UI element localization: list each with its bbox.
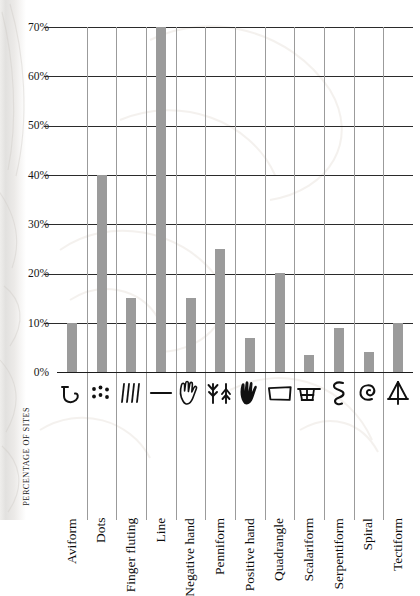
y-tick-60: 60% (5, 70, 49, 82)
bar-quadrangle (275, 273, 285, 372)
column-separator (383, 27, 384, 372)
aviform-icon (57, 375, 87, 411)
bar-serpentiform (334, 328, 344, 372)
negative-hand-icon (176, 375, 206, 411)
dots-icon (87, 375, 117, 411)
spiral-icon (354, 375, 384, 411)
tectiform-icon (383, 375, 413, 411)
positive-hand-icon (235, 375, 265, 411)
category-label: Positive hand (243, 518, 257, 591)
column-separator (294, 27, 295, 372)
category-cell-serpentiform: Serpentiform (324, 373, 354, 520)
category-cell-penniform: Penniform (205, 373, 235, 520)
category-label: Finger fluting (124, 518, 138, 593)
bar-aviform (67, 323, 77, 372)
category-cell-finger-fluting: Finger fluting (116, 373, 146, 520)
quadrangle-icon (265, 375, 295, 411)
y-tick-50: 50% (5, 119, 49, 131)
bar-spiral (364, 352, 374, 372)
serpentiform-icon (324, 375, 354, 411)
category-label: Negative hand (184, 518, 198, 596)
category-label: Quadrangle (273, 518, 287, 581)
category-label: Serpentiform (332, 518, 346, 589)
bar-tectiform (393, 323, 403, 372)
column-separator (324, 27, 325, 372)
column-separator (87, 27, 88, 372)
bar-negative-hand (186, 298, 196, 372)
category-label: Tectiform (391, 518, 405, 571)
column-separator (354, 27, 355, 372)
category-cell-scalariform: Scalariform (294, 373, 324, 520)
y-axis-title: PERCENTAGE OF SITES (22, 407, 31, 506)
category-label: Penniform (213, 518, 227, 575)
column-separator (116, 27, 117, 372)
y-tick-30: 30% (5, 218, 49, 230)
category-cell-tectiform: Tectiform (383, 373, 413, 520)
column-separator (235, 27, 236, 372)
plot-area (57, 27, 413, 372)
bar-scalariform (304, 355, 314, 372)
y-tick-70: 70% (5, 21, 49, 33)
y-tick-40: 40% (5, 169, 49, 181)
bar-finger-fluting (126, 298, 136, 372)
category-cell-spiral: Spiral (354, 373, 384, 520)
category-cell-dots: Dots (87, 373, 117, 520)
y-tick-0: 0% (5, 366, 49, 378)
bar-dots (97, 175, 107, 372)
y-tick-20: 20% (5, 267, 49, 279)
penniform-icon (205, 375, 235, 411)
category-label: Line (154, 518, 168, 543)
category-label: Aviform (65, 518, 79, 564)
category-label: Scalariform (302, 518, 316, 582)
column-separator (265, 27, 266, 372)
y-tick-10: 10% (5, 317, 49, 329)
scalariform-icon (294, 375, 324, 411)
category-label: Dots (95, 518, 109, 544)
category-cell-line: Line (146, 373, 176, 520)
category-cell-negative-hand: Negative hand (176, 373, 206, 520)
category-cell-aviform: Aviform (57, 373, 87, 520)
column-separator (176, 27, 177, 372)
bar-line (156, 27, 166, 372)
category-label: Spiral (362, 518, 376, 550)
line-icon (146, 375, 176, 411)
category-label-band: Aviform Dots Finger fluting Line (57, 373, 413, 520)
bar-positive-hand (245, 338, 255, 373)
column-separator (146, 27, 147, 372)
bar-penniform (215, 249, 225, 372)
finger-fluting-icon (116, 375, 146, 411)
category-cell-positive-hand: Positive hand (235, 373, 265, 520)
category-cell-quadrangle: Quadrangle (265, 373, 295, 520)
column-separator (205, 27, 206, 372)
